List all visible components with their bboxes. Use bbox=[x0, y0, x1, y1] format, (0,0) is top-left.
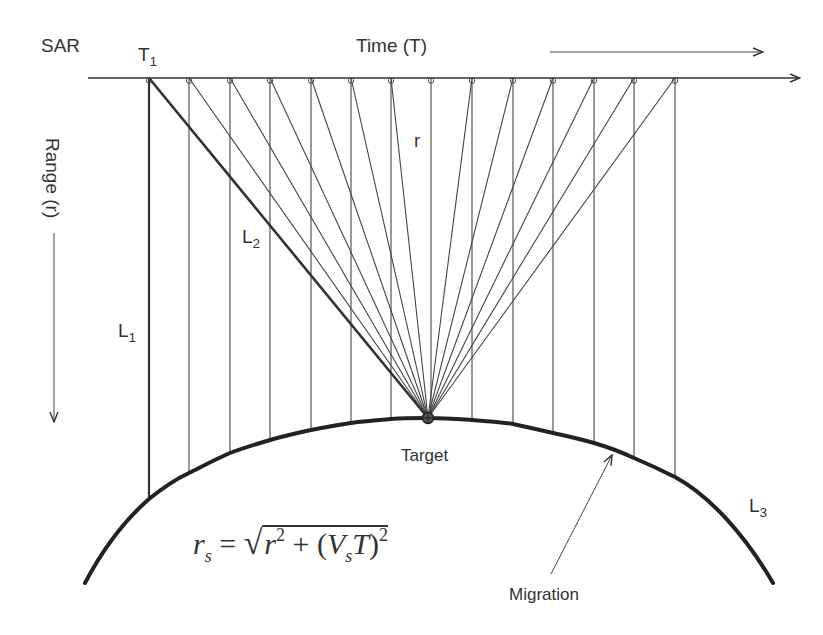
slant-range-line bbox=[428, 78, 513, 418]
range-axis-label: Range (r) bbox=[43, 138, 62, 218]
l1-text: L bbox=[118, 320, 129, 341]
slant-range-line bbox=[428, 78, 634, 418]
eq-plus: + bbox=[292, 527, 309, 560]
slant-range-lines-group bbox=[189, 78, 675, 418]
l2-text: L bbox=[242, 226, 253, 247]
l1-label: L1 bbox=[118, 321, 136, 340]
eq-r-exp: 2 bbox=[276, 525, 285, 545]
slant-range-line bbox=[189, 78, 428, 418]
l3-label: L3 bbox=[749, 496, 767, 515]
slant-range-line bbox=[351, 78, 428, 418]
l2-label: L2 bbox=[242, 227, 260, 246]
time-text: Time (T) bbox=[356, 35, 427, 56]
target-text: Target bbox=[401, 446, 448, 465]
t1-label: T1 bbox=[138, 45, 157, 64]
eq-open-paren: ( bbox=[317, 527, 327, 560]
l1-subscript: 1 bbox=[129, 330, 137, 345]
t1-text: T bbox=[138, 44, 150, 65]
eq-lhs-sub: s bbox=[205, 546, 212, 566]
l3-subscript: 3 bbox=[760, 505, 768, 520]
migration-label: Migration bbox=[509, 586, 579, 603]
target-icon bbox=[423, 413, 434, 424]
r-label: r bbox=[414, 131, 420, 150]
t1-subscript: 1 bbox=[150, 54, 158, 69]
range-equation: rs = √r2 + (VsT)2 bbox=[193, 525, 388, 560]
target-label: Target bbox=[401, 447, 448, 464]
r-text: r bbox=[414, 130, 420, 151]
range-text: Range (r) bbox=[42, 138, 63, 218]
sar-migration-diagram bbox=[0, 0, 823, 635]
l2-line bbox=[149, 78, 428, 418]
slant-range-line bbox=[428, 78, 553, 418]
migration-text: Migration bbox=[509, 585, 579, 604]
eq-radicand: r2 + (VsT)2 bbox=[262, 525, 388, 559]
eq-lhs-var: r bbox=[193, 527, 205, 560]
time-axis-label: Time (T) bbox=[356, 36, 427, 55]
sar-text: SAR bbox=[41, 35, 80, 56]
migration-pointer-arrow-icon bbox=[551, 455, 612, 574]
slant-range-line bbox=[270, 78, 428, 418]
slant-range-line bbox=[428, 78, 594, 418]
eq-equals: = bbox=[219, 527, 236, 560]
migration-curve-l3 bbox=[85, 418, 773, 583]
eq-close-paren: ) bbox=[369, 527, 379, 560]
eq-sqrt-icon: √ bbox=[244, 524, 263, 561]
eq-t: T bbox=[352, 527, 369, 560]
l3-text: L bbox=[749, 495, 760, 516]
slant-range-line bbox=[391, 78, 428, 418]
eq-v: V bbox=[327, 527, 345, 560]
sar-label: SAR bbox=[41, 36, 80, 55]
eq-paren-exp: 2 bbox=[379, 525, 388, 545]
eq-r: r bbox=[264, 527, 276, 560]
l2-subscript: 2 bbox=[253, 236, 261, 251]
